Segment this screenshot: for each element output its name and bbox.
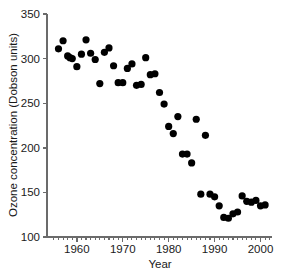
data-point <box>142 54 149 61</box>
data-point <box>156 89 163 96</box>
data-point <box>188 159 195 166</box>
data-point <box>105 44 112 51</box>
x-tick-label: 1970 <box>110 243 136 255</box>
y-tick-label: 200 <box>21 142 40 154</box>
data-point <box>197 191 204 198</box>
data-point <box>92 56 99 63</box>
y-tick-label: 350 <box>21 8 40 20</box>
data-point <box>160 100 167 107</box>
data-point <box>55 45 62 52</box>
x-tick-label: 1960 <box>64 243 90 255</box>
y-tick-label: 100 <box>21 231 40 243</box>
x-tick-label: 1990 <box>202 243 228 255</box>
data-point <box>170 130 177 137</box>
data-point <box>110 62 117 69</box>
x-tick-label: 2000 <box>248 243 274 255</box>
data-point <box>138 81 145 88</box>
data-point <box>151 70 158 77</box>
y-tick-label: 150 <box>21 186 40 198</box>
data-point <box>174 113 181 120</box>
data-point <box>165 123 172 130</box>
ozone-scatter-figure: 100150200250300350 19601970198019902000 … <box>0 0 293 276</box>
data-point <box>69 55 76 62</box>
plot-background <box>47 14 272 237</box>
data-point <box>183 150 190 157</box>
data-point <box>211 193 218 200</box>
x-tick-label: 1980 <box>156 243 182 255</box>
data-point <box>119 79 126 86</box>
data-point <box>73 63 80 70</box>
data-point <box>262 201 269 208</box>
x-axis-title: Year <box>148 258 171 270</box>
chart-canvas: 100150200250300350 19601970198019902000 … <box>0 0 293 276</box>
y-tick-label: 300 <box>21 53 40 65</box>
y-axis-title: Ozone concentration (Dobson units) <box>7 33 19 217</box>
data-point <box>216 202 223 209</box>
data-point <box>78 51 85 58</box>
data-point <box>82 36 89 43</box>
x-axis-tick-labels: 19601970198019902000 <box>64 243 273 255</box>
data-point <box>128 60 135 67</box>
data-point <box>96 80 103 87</box>
data-point <box>193 116 200 123</box>
data-point <box>202 132 209 139</box>
y-tick-label: 250 <box>21 97 40 109</box>
y-axis-tick-labels: 100150200250300350 <box>21 8 40 243</box>
data-point <box>59 37 66 44</box>
data-point <box>87 50 94 57</box>
data-point <box>234 208 241 215</box>
